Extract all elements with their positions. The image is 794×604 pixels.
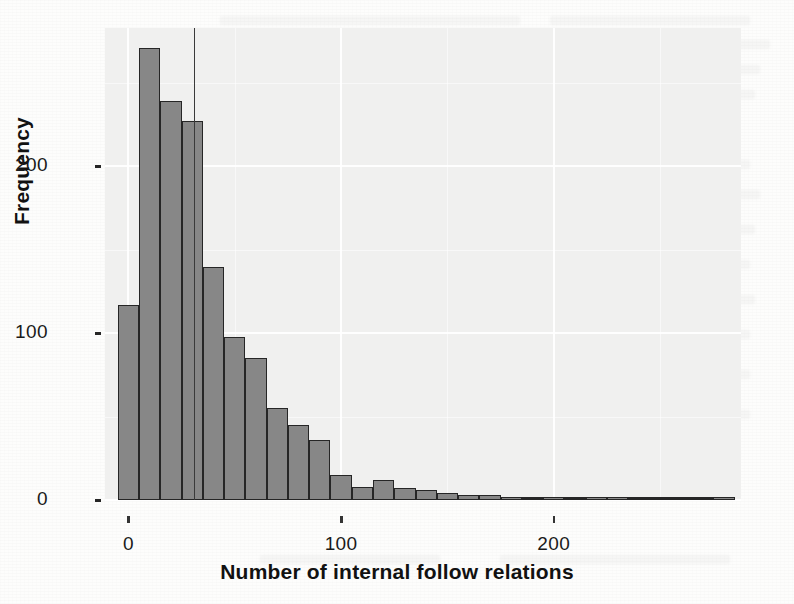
histogram-bar bbox=[458, 495, 479, 500]
histogram-bar bbox=[139, 48, 160, 500]
y-axis-tick-label: 100 bbox=[15, 321, 48, 343]
x-axis-tick-mark bbox=[553, 516, 556, 523]
histogram-bar bbox=[160, 101, 181, 500]
y-axis-tick-mark bbox=[95, 332, 101, 335]
histogram-bar bbox=[607, 497, 628, 500]
histogram-bar bbox=[501, 497, 522, 500]
histogram-bar bbox=[309, 440, 330, 500]
histogram-bar bbox=[479, 495, 500, 500]
histogram-bar bbox=[671, 497, 692, 500]
histogram-bar bbox=[650, 497, 671, 500]
histogram-bar bbox=[692, 497, 713, 500]
y-axis-tick-mark bbox=[95, 165, 101, 168]
x-axis-title: Number of internal follow relations bbox=[0, 560, 794, 584]
histogram-bar bbox=[586, 497, 607, 500]
x-axis-tick-mark bbox=[340, 516, 343, 523]
x-axis-tick-mark bbox=[127, 516, 130, 523]
histogram-bar bbox=[267, 408, 288, 500]
vertical-reference-line bbox=[194, 28, 196, 500]
y-axis-tick-label: 0 bbox=[37, 488, 48, 510]
x-axis-tick-label: 200 bbox=[537, 533, 570, 555]
histogram-bar bbox=[224, 337, 245, 500]
histogram-bar bbox=[182, 121, 203, 500]
histogram-bar bbox=[437, 493, 458, 500]
histogram-bar bbox=[394, 488, 415, 500]
histogram-bar bbox=[288, 425, 309, 500]
histogram-bar bbox=[245, 358, 266, 500]
histogram-bar bbox=[713, 497, 734, 500]
histogram-bar bbox=[628, 497, 649, 500]
histogram-bars bbox=[105, 28, 741, 500]
histogram-bar bbox=[118, 305, 139, 500]
plot-panel bbox=[105, 28, 741, 500]
x-axis-tick-label: 0 bbox=[123, 533, 134, 555]
histogram-bar bbox=[203, 267, 224, 500]
histogram-bar bbox=[416, 490, 437, 500]
histogram-bar bbox=[543, 497, 564, 500]
histogram-bar bbox=[522, 497, 543, 500]
y-axis-tick-mark bbox=[95, 499, 101, 502]
histogram-bar bbox=[330, 475, 351, 500]
histogram-bar bbox=[564, 497, 585, 500]
y-axis-tick-label: 200 bbox=[15, 154, 48, 176]
x-axis-tick-label: 100 bbox=[325, 533, 358, 555]
histogram-bar bbox=[352, 487, 373, 500]
figure-canvas: Frequency 0100200 0100200 Number of inte… bbox=[0, 0, 794, 604]
histogram-bar bbox=[373, 480, 394, 500]
